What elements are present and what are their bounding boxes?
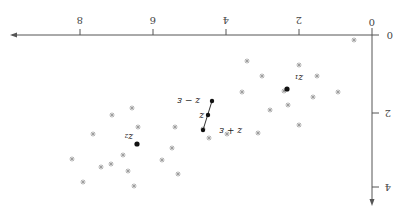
y-axis-arrow-icon: [370, 199, 375, 206]
point-z-minus-eps: [210, 99, 214, 103]
x-axis: [10, 29, 372, 38]
centroid-z2: [134, 141, 139, 146]
label-z1: z₁: [295, 73, 303, 82]
sample-points: [70, 38, 357, 189]
x-tick-8: 8: [77, 15, 83, 25]
label-z-plus-eps: z + ε: [219, 126, 242, 135]
y-tick-4: 4: [385, 182, 391, 192]
label-z-minus-eps: z − ε: [177, 96, 200, 105]
x-tick-0: 0: [369, 17, 375, 27]
x-tick-2: 2: [296, 15, 302, 25]
label-z2: z₂: [125, 132, 133, 141]
y-tick-0: 0: [387, 30, 393, 40]
label-z: z: [199, 111, 204, 120]
scatter-figure: 0 2 4 6 8 0 2 4 z₁ z₂ z − ε z z + ε: [0, 0, 399, 210]
x-tick-6: 6: [150, 15, 156, 25]
y-axis: [370, 28, 380, 206]
y-tick-2: 2: [385, 108, 391, 118]
point-z-plus-eps: [201, 128, 205, 132]
point-z: [206, 113, 210, 117]
x-tick-4: 4: [223, 15, 229, 25]
centroid-z1: [284, 86, 289, 91]
x-axis-arrow-icon: [10, 33, 17, 38]
